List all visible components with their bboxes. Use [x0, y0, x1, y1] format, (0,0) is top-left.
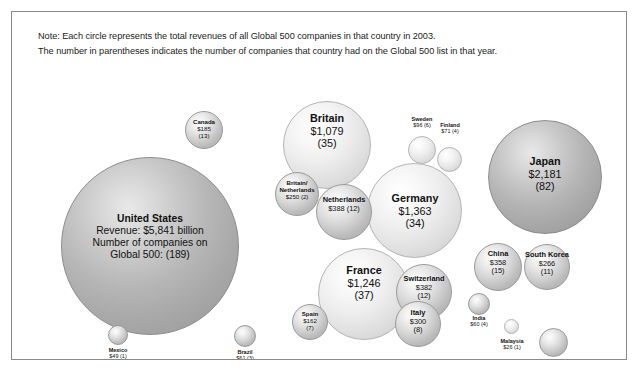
- label-india-name: India: [453, 315, 505, 321]
- label-finland-name: Finland: [424, 122, 476, 128]
- bubble-united-states[interactable]: [61, 157, 239, 335]
- label-sweden-value: $96 (6): [396, 122, 448, 128]
- bubble-plot-area: United States Revenue: $5,841 billion Nu…: [12, 12, 626, 359]
- chart-screenshot: Note: Each circle represents the total r…: [0, 0, 640, 373]
- bubble-australia[interactable]: [539, 328, 568, 357]
- bubble-germany[interactable]: [367, 163, 462, 258]
- label-brazil-name: Brazil: [219, 349, 271, 355]
- chart-panel: Note: Each circle represents the total r…: [11, 11, 627, 360]
- label-india-value: $60 (4): [453, 321, 505, 327]
- label-sweden-name: Sweden: [396, 116, 448, 122]
- label-australia: Australia $107 (7): [528, 358, 580, 360]
- bubble-japan[interactable]: [488, 120, 602, 234]
- label-malaysia-value: $26 (1): [486, 344, 538, 350]
- bubble-brazil[interactable]: [234, 325, 256, 347]
- bubble-finland[interactable]: [437, 147, 462, 172]
- bubble-india[interactable]: [468, 293, 490, 315]
- label-sweden: Sweden $96 (6): [396, 116, 448, 129]
- bubble-malaysia[interactable]: [504, 319, 519, 334]
- bubble-canada[interactable]: [185, 111, 223, 149]
- bubble-china[interactable]: [474, 243, 522, 291]
- bubble-britain-netherlands[interactable]: [275, 172, 319, 216]
- label-malaysia-name: Malaysia: [486, 338, 538, 344]
- label-finland-value: $71 (4): [424, 128, 476, 134]
- bubble-sweden[interactable]: [408, 136, 436, 164]
- label-australia-name: Australia: [528, 358, 580, 360]
- bubble-italy[interactable]: [395, 301, 441, 347]
- label-mexico-name: Mexico: [92, 347, 144, 353]
- bubble-mexico[interactable]: [108, 325, 128, 345]
- label-brazil: Brazil $61 (3): [219, 349, 271, 360]
- bubble-netherlands[interactable]: [316, 184, 372, 240]
- label-finland: Finland $71 (4): [424, 122, 476, 135]
- label-india: India $60 (4): [453, 315, 505, 328]
- label-mexico-value: $49 (1): [92, 353, 144, 359]
- label-mexico: Mexico $49 (1): [92, 347, 144, 360]
- bubble-spain[interactable]: [292, 304, 328, 340]
- label-malaysia: Malaysia $26 (1): [486, 338, 538, 351]
- label-brazil-value: $61 (3): [219, 355, 271, 360]
- bubble-south-korea[interactable]: [524, 244, 570, 290]
